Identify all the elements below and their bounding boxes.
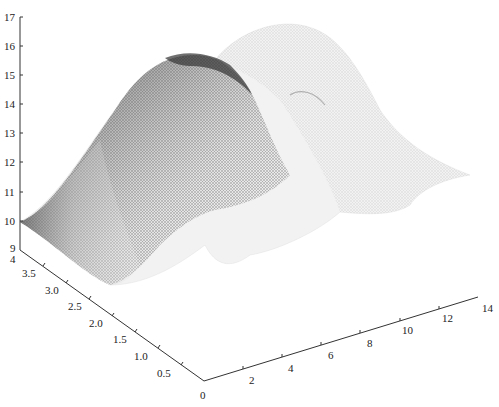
svg-text:1.5: 1.5 — [113, 333, 127, 345]
svg-text:3.5: 3.5 — [22, 267, 36, 279]
svg-text:11: 11 — [4, 186, 15, 198]
svg-text:15: 15 — [4, 69, 16, 81]
svg-text:2.5: 2.5 — [68, 300, 82, 312]
svg-text:14: 14 — [482, 302, 494, 314]
surface-mesh — [20, 24, 470, 285]
svg-text:12: 12 — [442, 312, 453, 324]
svg-text:17: 17 — [4, 11, 16, 23]
svg-text:12: 12 — [4, 156, 15, 168]
svg-text:0: 0 — [200, 389, 206, 401]
svg-text:14: 14 — [4, 98, 16, 110]
svg-text:8: 8 — [367, 337, 373, 349]
svg-text:13: 13 — [4, 127, 16, 139]
svg-text:10: 10 — [4, 215, 16, 227]
svg-text:16: 16 — [4, 40, 16, 52]
surface-plot: 17 16 15 14 13 12 11 10 9 4 3.5 3.0 2.5 … — [0, 0, 499, 407]
svg-text:3.0: 3.0 — [45, 284, 59, 296]
svg-text:6: 6 — [328, 349, 334, 361]
svg-text:4: 4 — [10, 253, 16, 265]
x-axis — [204, 297, 478, 381]
svg-text:0.5: 0.5 — [157, 367, 171, 379]
svg-text:10: 10 — [402, 324, 414, 336]
svg-text:1.0: 1.0 — [134, 350, 148, 362]
x-axis-labels: 0 2 4 6 8 10 12 14 — [200, 302, 494, 401]
z-axis-labels: 17 16 15 14 13 12 11 10 9 — [4, 11, 16, 254]
svg-text:4: 4 — [288, 362, 294, 374]
svg-text:2: 2 — [249, 374, 255, 386]
svg-text:2.0: 2.0 — [89, 317, 103, 329]
